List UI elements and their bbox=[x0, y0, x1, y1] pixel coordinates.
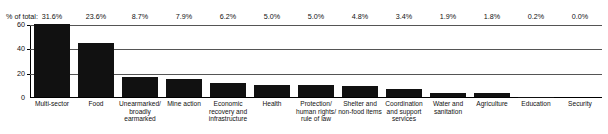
percent-of-total-value: 0.0% bbox=[558, 11, 602, 23]
bar bbox=[298, 85, 333, 97]
x-axis-category-label: Multi-sector bbox=[28, 100, 76, 108]
x-axis-category-labels: Multi-sectorFoodUnearmarked/ broadly ear… bbox=[30, 100, 602, 134]
gridline bbox=[30, 74, 602, 75]
y-axis-tick-label: 60 bbox=[1, 21, 25, 29]
gridline bbox=[30, 49, 602, 50]
y-axis-tick-mark bbox=[27, 74, 30, 75]
x-axis-category-label: Coordination and support services bbox=[380, 100, 428, 123]
x-axis-category-label: Protection/ human rights/ rule of law bbox=[292, 100, 340, 123]
percent-of-total-value: 8.7% bbox=[118, 11, 162, 23]
x-axis-category-label: Economic recovery and infrastructure bbox=[204, 100, 252, 123]
percent-of-total-value: 1.9% bbox=[426, 11, 470, 23]
percent-of-total-value: 0.2% bbox=[514, 11, 558, 23]
bar bbox=[342, 86, 377, 97]
percent-of-total-value: 5.0% bbox=[294, 11, 338, 23]
bar bbox=[122, 77, 157, 97]
y-axis-tick-mark bbox=[27, 25, 30, 26]
bar bbox=[254, 85, 289, 97]
y-axis-line bbox=[30, 25, 31, 98]
x-axis-line bbox=[30, 97, 602, 98]
bar bbox=[430, 93, 465, 97]
percent-of-total-value: 23.6% bbox=[74, 11, 118, 23]
percent-of-total-row: % of total: 31.6%23.6%8.7%7.9%6.2%5.0%5.… bbox=[0, 11, 608, 23]
bar bbox=[78, 43, 113, 98]
percent-of-total-value: 4.8% bbox=[338, 11, 382, 23]
x-axis-category-label: Security bbox=[556, 100, 604, 108]
x-axis-category-label: Water and sanitation bbox=[424, 100, 472, 115]
y-axis-tick-mark bbox=[27, 49, 30, 50]
x-axis-category-label: Food bbox=[72, 100, 120, 108]
x-axis-category-label: Agriculture bbox=[468, 100, 516, 108]
x-axis-category-label: Shelter and non-food items bbox=[336, 100, 384, 115]
percent-of-total-value: 1.8% bbox=[470, 11, 514, 23]
percent-of-total-value: 31.6% bbox=[30, 11, 74, 23]
bar bbox=[34, 24, 69, 97]
bar bbox=[210, 83, 245, 97]
y-axis-tick-label: 20 bbox=[1, 70, 25, 78]
x-axis-category-label: Health bbox=[248, 100, 296, 108]
bar bbox=[166, 79, 201, 97]
x-axis-category-label: Unearmarked/ broadly earmarked bbox=[116, 100, 164, 123]
plot-area: 0204060 bbox=[30, 25, 602, 98]
y-axis-tick-label: 40 bbox=[1, 45, 25, 53]
percent-of-total-value: 5.0% bbox=[250, 11, 294, 23]
gridline bbox=[30, 25, 602, 26]
bar-chart: % of total: 31.6%23.6%8.7%7.9%6.2%5.0%5.… bbox=[0, 0, 608, 134]
bar bbox=[474, 93, 509, 97]
x-axis-category-label: Education bbox=[512, 100, 560, 108]
x-axis-category-label: Mine action bbox=[160, 100, 208, 108]
percent-of-total-value: 6.2% bbox=[206, 11, 250, 23]
percent-of-total-value: 7.9% bbox=[162, 11, 206, 23]
percent-of-total-value: 3.4% bbox=[382, 11, 426, 23]
bar bbox=[386, 89, 421, 97]
y-axis-tick-label: 0 bbox=[1, 94, 25, 102]
